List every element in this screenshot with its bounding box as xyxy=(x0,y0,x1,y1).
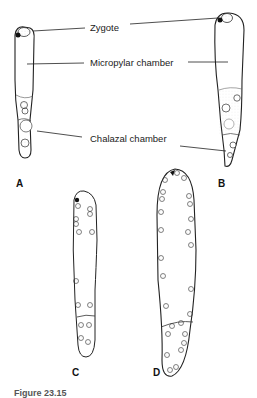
micropylar-leader-a xyxy=(27,63,84,64)
nucleus xyxy=(21,139,29,147)
nucleus xyxy=(22,108,28,114)
figure-caption: Figure 23.15 xyxy=(14,388,67,398)
panel-label-d: D xyxy=(153,367,160,378)
zygote-label: Zygote xyxy=(90,22,119,33)
panel-a-cell xyxy=(15,27,34,158)
panel-label-a: A xyxy=(16,178,23,189)
chalazal-leader-a xyxy=(37,131,82,137)
chalazal-leader-b xyxy=(180,146,226,151)
zygote-b xyxy=(222,14,233,23)
panel-label-b: B xyxy=(218,178,225,189)
micropylar-chamber-label: Micropylar chamber xyxy=(90,57,173,68)
panel-b-cell xyxy=(215,13,244,166)
panel-d-cell xyxy=(157,169,196,376)
nucleus xyxy=(222,104,230,112)
synergid-remnant xyxy=(218,18,223,23)
chalazal-chamber-label: Chalazal chamber xyxy=(90,133,167,144)
panel-label-c: C xyxy=(72,367,79,378)
nucleus xyxy=(228,153,233,158)
leader-lines xyxy=(27,18,228,151)
nucleus xyxy=(21,102,28,109)
synergid-remnant xyxy=(16,33,21,38)
nucleus xyxy=(230,142,236,148)
zygote-leader-b xyxy=(130,18,218,24)
zygote-leader-a xyxy=(33,28,85,31)
panel-c-cell xyxy=(73,191,97,357)
nucleus xyxy=(234,95,240,101)
